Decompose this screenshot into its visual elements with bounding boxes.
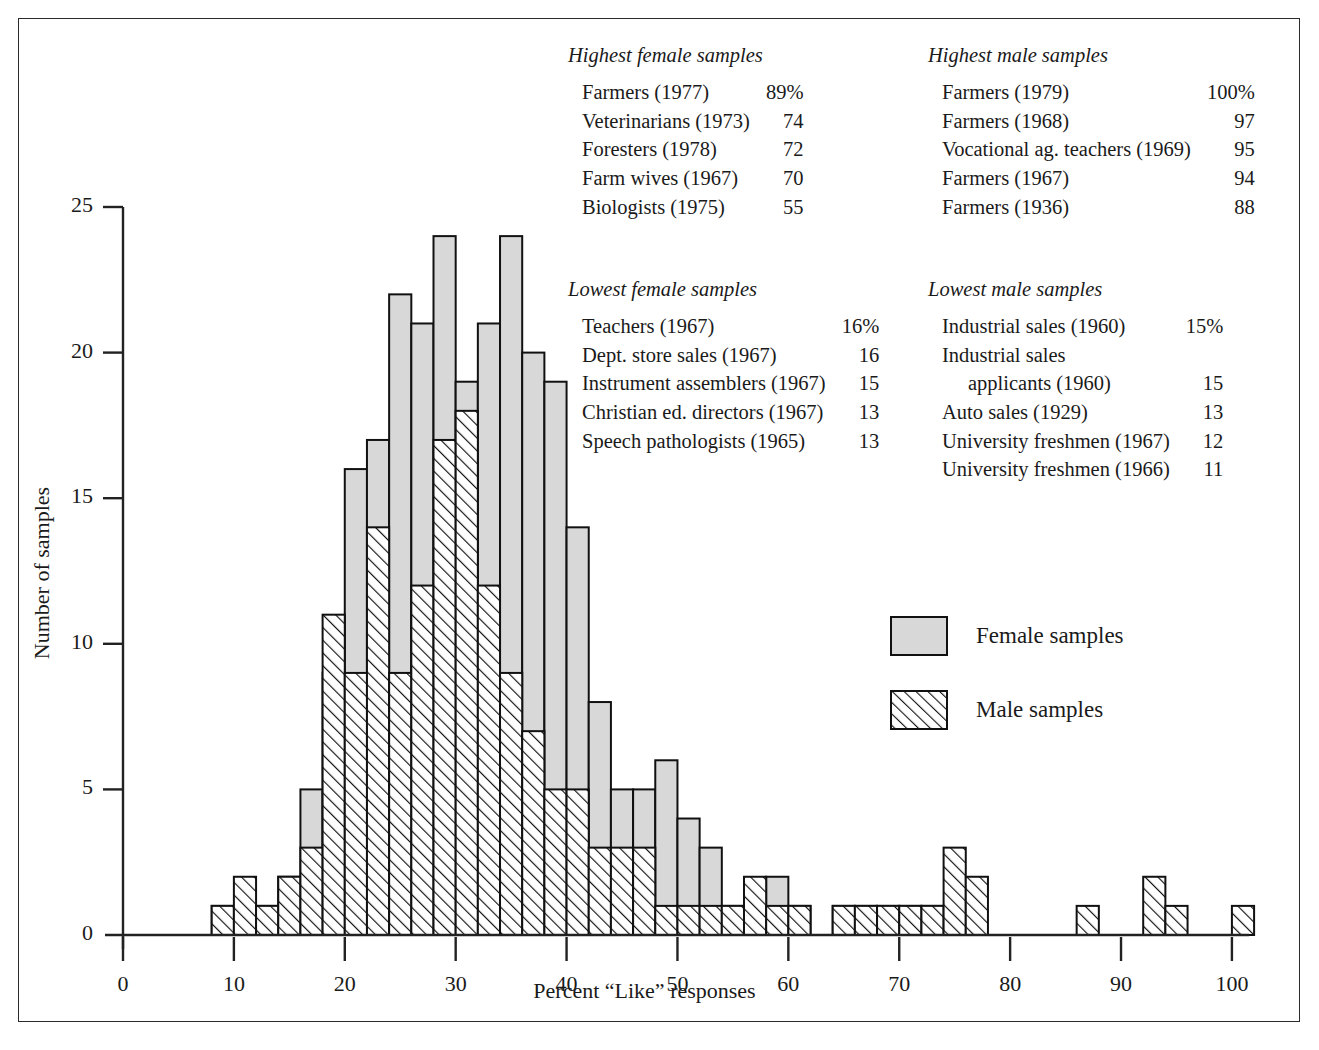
male-bar <box>234 877 256 935</box>
male-bar <box>389 673 411 935</box>
male-bar <box>323 615 345 935</box>
male-bar <box>300 848 322 935</box>
x-tick-label: 100 <box>1192 971 1272 997</box>
male-bar <box>544 789 566 935</box>
male-bar <box>722 906 744 935</box>
male-bar <box>744 877 766 935</box>
male-bar <box>833 906 855 935</box>
x-tick-label: 30 <box>416 971 496 997</box>
male-bar <box>478 586 500 935</box>
male-bar <box>500 673 522 935</box>
male-bar <box>1232 906 1254 935</box>
male-bar <box>766 906 788 935</box>
histogram-plot <box>0 0 1319 1050</box>
male-bar <box>788 906 810 935</box>
male-bar <box>655 906 677 935</box>
male-bar <box>212 906 234 935</box>
male-bar <box>899 906 921 935</box>
x-tick-label: 20 <box>305 971 385 997</box>
male-bar <box>921 906 943 935</box>
male-bar <box>522 731 544 935</box>
male-bar <box>611 848 633 935</box>
male-bar <box>944 848 966 935</box>
y-tick-label: 20 <box>0 338 93 364</box>
male-bar <box>256 906 278 935</box>
male-bar <box>700 906 722 935</box>
y-tick-label: 0 <box>0 920 93 946</box>
y-tick-label: 5 <box>0 774 93 800</box>
x-tick-label: 10 <box>194 971 274 997</box>
x-tick-label: 70 <box>859 971 939 997</box>
x-tick-label: 50 <box>637 971 717 997</box>
x-tick-label: 60 <box>748 971 828 997</box>
y-tick-label: 10 <box>0 629 93 655</box>
male-bar <box>1143 877 1165 935</box>
y-tick-label: 25 <box>0 192 93 218</box>
figure-page: Highest female samples Farmers (1977) 89… <box>0 0 1319 1050</box>
male-bar <box>633 848 655 935</box>
x-tick-label: 80 <box>970 971 1050 997</box>
male-bar <box>855 906 877 935</box>
male-bar <box>567 789 589 935</box>
y-tick-label: 15 <box>0 483 93 509</box>
x-tick-label: 40 <box>527 971 607 997</box>
male-bar <box>367 527 389 935</box>
male-bar <box>456 411 478 935</box>
male-bar <box>1165 906 1187 935</box>
x-tick-label: 90 <box>1081 971 1161 997</box>
male-bar <box>278 877 300 935</box>
male-bar <box>1077 906 1099 935</box>
male-bar <box>877 906 899 935</box>
male-bar <box>434 440 456 935</box>
male-bar <box>677 906 699 935</box>
male-bar <box>966 877 988 935</box>
x-tick-label: 0 <box>83 971 163 997</box>
male-bar <box>589 848 611 935</box>
male-bar <box>345 673 367 935</box>
male-bar <box>411 586 433 935</box>
